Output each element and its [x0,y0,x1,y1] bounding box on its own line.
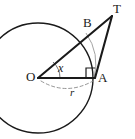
vertex-label-o: O [26,70,35,83]
geometry-canvas [0,0,135,139]
vertex-label-b: B [83,16,92,29]
radius-label-r: r [70,87,74,98]
angle-label-x: x [58,62,63,74]
segment-ot [38,16,112,78]
radius-indicator-arc [41,81,93,89]
segment-at [95,16,112,78]
geometry-figure: T B A O x r [0,0,135,139]
vertex-label-a: A [98,71,107,84]
vertex-label-t: T [113,2,121,15]
